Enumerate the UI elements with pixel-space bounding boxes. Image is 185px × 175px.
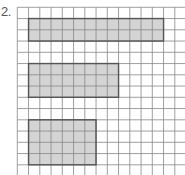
grid-diagram <box>0 0 185 175</box>
